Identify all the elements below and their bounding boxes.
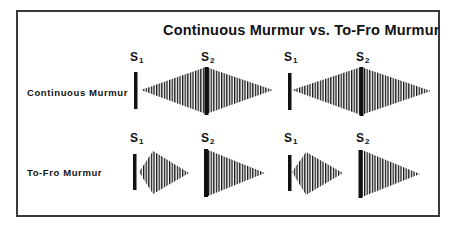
diastolic-murmur-shape	[362, 150, 420, 197]
decrescendo-shape	[206, 67, 273, 114]
s1-heart-sound-bar	[288, 73, 292, 110]
s1-heart-sound-bar	[134, 72, 138, 109]
systolic-murmur-shape	[139, 151, 189, 194]
systolic-murmur-shape	[292, 152, 343, 195]
continuous-murmur-cycle-2	[288, 67, 431, 116]
s2-heart-sound-bar	[360, 67, 364, 116]
crescendo-shape	[141, 67, 206, 114]
continuous-murmur-cycle-1	[134, 67, 273, 115]
s2-heart-sound-bar	[359, 150, 363, 198]
s1-heart-sound-bar	[288, 155, 292, 191]
to-fro-murmur-cycle-2	[288, 150, 420, 198]
to-fro-murmur-cycle-1	[133, 149, 265, 197]
s2-heart-sound-bar	[204, 149, 208, 197]
s2-heart-sound-bar	[205, 67, 209, 115]
decrescendo-shape	[361, 67, 431, 115]
diastolic-murmur-shape	[208, 150, 265, 196]
crescendo-shape	[292, 67, 361, 115]
s1-heart-sound-bar	[133, 154, 137, 190]
phonocardiogram-diagram	[0, 0, 451, 226]
